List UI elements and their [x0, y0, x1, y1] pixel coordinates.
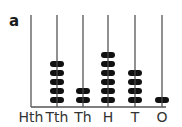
column-label-t: T: [131, 110, 140, 124]
abacus-rod-t: [128, 15, 142, 107]
column-label-th: Th: [74, 110, 91, 124]
column-label-tth: Tth: [46, 110, 69, 124]
abacus-rod-th: [76, 15, 90, 107]
abacus-rod-tth: [50, 15, 64, 107]
abacus-rod-o: [155, 15, 169, 107]
column-label-h: H: [103, 110, 114, 124]
column-label-hth: Hth: [19, 110, 44, 124]
column-label-o: O: [156, 110, 167, 124]
abacus-diagram: [0, 0, 182, 127]
abacus-rod-h: [101, 15, 115, 107]
